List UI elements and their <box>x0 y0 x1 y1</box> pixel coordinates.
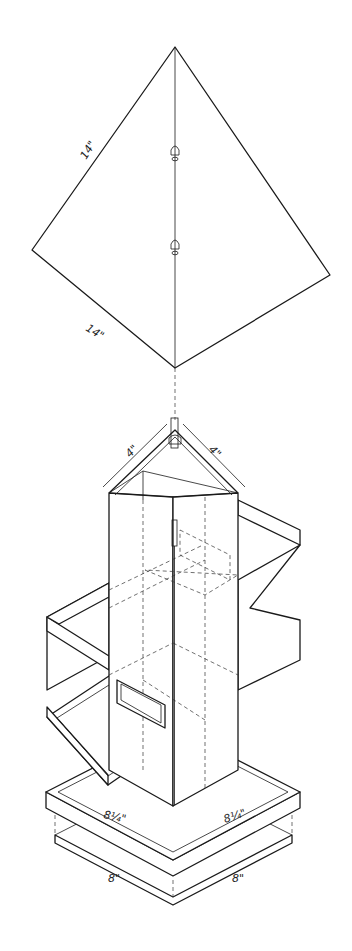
tray-dim-right-lower: 8" <box>232 872 244 885</box>
left-upper-tray <box>47 583 109 690</box>
right-upper-tray <box>238 500 300 690</box>
tray-dim-left-lower: 8" <box>108 872 120 885</box>
roof-dim-left: 14" <box>78 139 99 162</box>
roof-panel <box>32 47 330 368</box>
hopper-body <box>109 471 238 806</box>
hopper-dim-right: 4" <box>206 443 224 461</box>
bird-feeder-illustration: 14" 14" 8¼" 8¼" 8" 8" <box>0 0 352 951</box>
roof-dim-bottom: 14" <box>83 322 106 343</box>
exploded-drawing: 14" 14" 8¼" 8¼" 8" 8" <box>0 0 352 951</box>
hopper-dim-left: 4" <box>123 442 141 460</box>
